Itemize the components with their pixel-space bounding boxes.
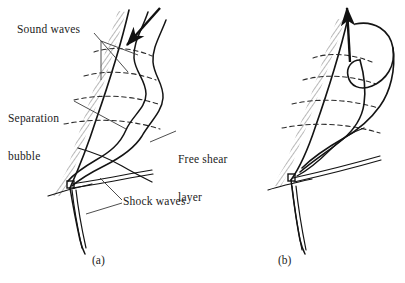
panel-caption-b: (b) [278,254,291,266]
leader-shock-waves [86,178,122,214]
shock-wave-upper-b [293,156,381,182]
panel-b [268,8,394,254]
label-separation-bubble: Separation bubble [8,87,59,187]
label-shock-waves: Shock waves [123,195,186,208]
panel-a [48,8,176,254]
wall-hatching-a [52,11,126,196]
label-separation-bubble-line2: bubble [8,150,59,163]
shock-wave-lower-a [72,190,86,248]
label-free-shear-layer: Free shear layer [178,128,228,228]
leader-free-shear-layer [150,131,176,142]
flow-arrow-a [127,8,160,45]
flow-arrow-b [347,8,350,62]
figure-root: Sound waves Separation bubble Free shear… [0,0,405,283]
wall-surface-b [291,18,348,180]
panel-caption-a: (a) [92,254,105,266]
shock-wave-lower-b [292,186,306,250]
label-separation-bubble-line1: Separation [8,112,59,125]
label-free-shear-layer-line1: Free shear [178,153,228,166]
label-sound-waves: Sound waves [17,23,80,36]
